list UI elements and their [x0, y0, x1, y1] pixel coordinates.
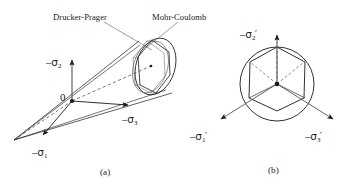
sigma-2-axis-label: –σ2	[46, 57, 62, 70]
sigma-3-subscript: 3	[134, 119, 138, 127]
sigma-1-subscript: 1	[44, 152, 48, 160]
panel-a-graphic	[14, 22, 183, 140]
origin-point	[70, 99, 74, 103]
sigma-2-subscript: 2	[58, 62, 62, 70]
sigma-3-axis-label: –σ3	[122, 114, 138, 127]
sigma-3-prime-symbol: σ	[310, 130, 317, 142]
sigma-1-axis-label: –σ1	[32, 147, 48, 160]
sigma-3-symbol: σ	[127, 113, 134, 125]
figure-root: Drucker-Prager Mohr-Coulomb 0 –σ2 –σ3 –σ…	[0, 0, 348, 192]
sigma-3-prime-axis-label: –σ3′	[305, 131, 322, 144]
sigma-2-prime-axis-label: –σ2′	[240, 29, 257, 42]
panel-b-center-point	[275, 82, 280, 87]
sigma-1-prime-symbol: σ	[195, 130, 202, 142]
mohr-coulomb-leader-line	[146, 22, 178, 48]
cap-center-point	[150, 65, 153, 68]
drucker-prager-label: Drucker-Prager	[53, 13, 107, 22]
panel-b-caption: (b)	[268, 166, 279, 175]
sigma-2-symbol: σ	[51, 56, 58, 68]
sigma-2-prime-symbol: σ	[245, 28, 252, 40]
sigma-2-prime-mark: ′	[255, 28, 257, 38]
sigma-3-prime-mark: ′	[320, 130, 322, 140]
origin-label: 0	[60, 92, 66, 103]
drucker-prager-leader-line	[104, 22, 152, 50]
sigma-1-prime-axis-label: –σ1′	[190, 131, 207, 144]
mohr-coulomb-label: Mohr-Coulomb	[152, 13, 206, 22]
mohr-coulomb-cap-hexagon	[138, 40, 170, 93]
drucker-prager-cone-body	[14, 41, 172, 140]
panel-b-graphic	[221, 35, 333, 121]
sigma-1-symbol: σ	[37, 146, 44, 158]
sigma-3-axis-line	[72, 101, 128, 105]
panel-a-caption: (a)	[100, 168, 110, 177]
figure-canvas	[0, 0, 348, 192]
apex-construction-dashed	[14, 101, 72, 140]
sigma-3-prime-axis-line	[277, 84, 333, 119]
hydrostatic-axis-dashed	[72, 66, 151, 101]
sigma-1-axis-line	[43, 101, 72, 135]
sigma-1-prime-mark: ′	[205, 130, 207, 140]
